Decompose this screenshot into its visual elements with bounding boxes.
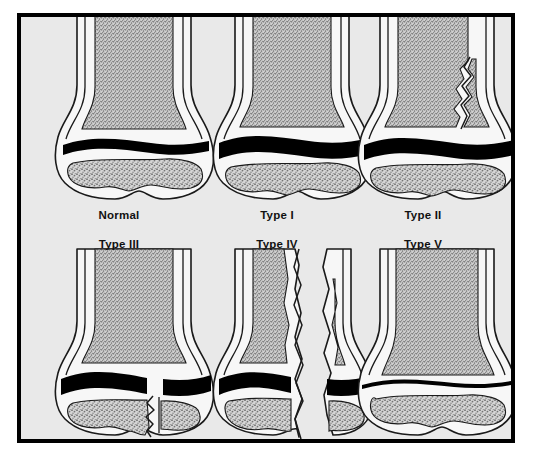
- panel-label-type-5: Type V: [343, 238, 503, 251]
- illustration-frame: Normal Type I Type II Type III Type IV T…: [17, 13, 515, 443]
- panel-label-type-1: Type I: [197, 209, 357, 222]
- panel-type-2: [358, 13, 515, 199]
- panel-type-1: [213, 13, 371, 199]
- panel-type-5: [358, 249, 515, 435]
- panel-label-type-2: Type II: [343, 209, 503, 222]
- panel-type-4: [213, 249, 373, 439]
- panel-normal: [55, 13, 213, 199]
- panel-label-normal: Normal: [39, 209, 199, 222]
- panel-label-type-4: Type IV: [197, 238, 357, 251]
- panel-label-type-3: Type III: [39, 238, 199, 251]
- figure-root: Normal Type I Type II Type III Type IV T…: [0, 0, 534, 451]
- salter-harris-illustration: [21, 17, 511, 439]
- panel-type-3: [55, 249, 213, 437]
